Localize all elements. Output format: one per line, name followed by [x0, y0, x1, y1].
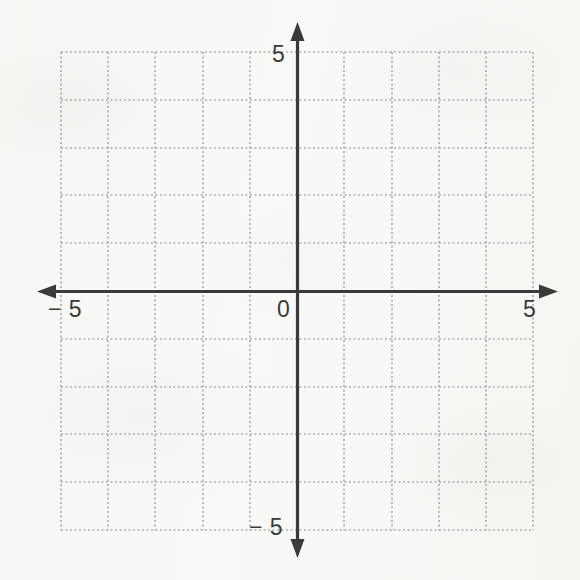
- origin-label: 0: [277, 298, 290, 321]
- coordinate-plane-figure: 5 − 5 − 5 5 0: [0, 0, 580, 580]
- y-axis-arrow-up-icon: [291, 22, 305, 41]
- coordinate-plane-svg: [0, 0, 580, 580]
- x-axis-arrow-right-icon: [539, 285, 558, 299]
- y-axis-arrow-down-icon: [291, 539, 305, 558]
- x-axis-label-minus-5: − 5: [48, 298, 82, 321]
- y-axis-label-minus-5: − 5: [249, 516, 283, 539]
- y-axis-label-5: 5: [272, 43, 285, 66]
- x-axis-label-5: 5: [523, 298, 536, 321]
